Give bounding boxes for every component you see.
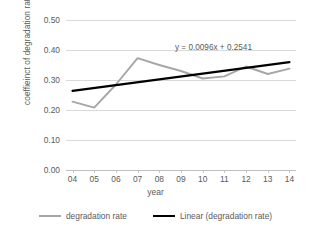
x-tick-label-07: 07 <box>126 174 150 184</box>
x-tick-label-10: 10 <box>191 174 215 184</box>
x-tick-label-13: 13 <box>256 174 280 184</box>
x-tick-label-08: 08 <box>147 174 171 184</box>
series-layer <box>0 0 311 235</box>
x-tick-label-14: 14 <box>277 174 301 184</box>
x-tick-label-12: 12 <box>234 174 258 184</box>
legend-item-degradation-rate[interactable]: degradation rate <box>39 211 127 221</box>
degradation-rate-chart: coeffieinct of degradation rate 0.50 0.4… <box>0 0 311 235</box>
x-tick-mark-13 <box>268 170 269 173</box>
x-tick-mark-14 <box>289 170 290 173</box>
legend-label-degradation-rate: degradation rate <box>66 211 127 221</box>
x-tick-label-06: 06 <box>104 174 128 184</box>
chart-legend: degradation rate Linear (degradation rat… <box>0 211 311 221</box>
x-tick-mark-08 <box>159 170 160 173</box>
x-tick-mark-11 <box>224 170 225 173</box>
x-tick-mark-12 <box>246 170 247 173</box>
x-tick-mark-07 <box>138 170 139 173</box>
x-tick-mark-05 <box>94 170 95 173</box>
x-tick-mark-10 <box>203 170 204 173</box>
legend-label-linear-trend: Linear (degradation rate) <box>180 211 272 221</box>
x-tick-label-04: 04 <box>61 174 85 184</box>
series-line-linear-trend <box>73 62 290 91</box>
x-tick-mark-09 <box>181 170 182 173</box>
trendline-equation-label: y = 0.0096x + 0.2541 <box>175 43 252 52</box>
x-tick-label-11: 11 <box>212 174 236 184</box>
x-tick-label-05: 05 <box>82 174 106 184</box>
x-axis-title: year <box>0 187 311 197</box>
legend-item-linear-trend[interactable]: Linear (degradation rate) <box>153 211 272 221</box>
x-tick-mark-06 <box>116 170 117 173</box>
x-tick-label-09: 09 <box>169 174 193 184</box>
legend-swatch-icon-degradation-rate <box>39 215 61 217</box>
legend-swatch-icon-linear-trend <box>153 215 175 217</box>
x-tick-mark-04 <box>73 170 74 173</box>
